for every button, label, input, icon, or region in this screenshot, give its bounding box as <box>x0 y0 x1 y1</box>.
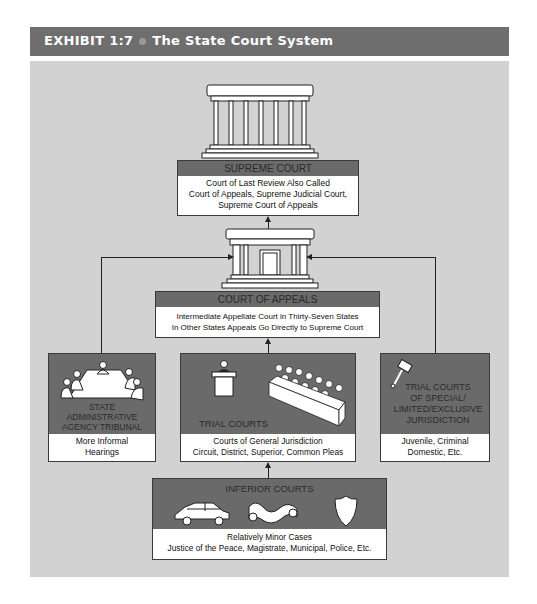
jury-box-icon <box>265 360 351 428</box>
arrow-up-icon <box>265 216 271 222</box>
special-trial-courts-box: TRIAL COURTS OF SPECIAL/ LIMITED/EXCLUSI… <box>380 353 490 462</box>
state-admin-tribunal-box: STATE ADMINISTRATIVE AGENCY TRIBUNAL Mor… <box>48 353 156 462</box>
state-admin-title-line: ADMINISTRATIVE <box>49 412 155 422</box>
court-of-appeals-line: Intermediate Appellate Court in Thirty-S… <box>156 311 379 322</box>
special-trial-title-line: TRIAL COURTS <box>387 382 489 393</box>
exhibit-title: EXHIBIT 1:7The State Court System <box>44 33 333 48</box>
special-trial-title-line: OF SPECIAL/ <box>387 393 489 404</box>
supreme-court-line: Court of Last Review Also Called <box>178 178 358 189</box>
courthouse-door-icon <box>220 228 320 290</box>
arrow-left-icon <box>306 254 312 260</box>
special-trial-line: Juvenile, Criminal <box>381 436 489 447</box>
connector-special-to-appeals <box>435 257 436 353</box>
supreme-court-line: Court of Appeals, Supreme Judicial Court… <box>178 189 358 200</box>
court-of-appeals-line: In Other States Appeals Go Directly to S… <box>156 322 379 333</box>
exhibit-caption: The State Court System <box>152 33 333 48</box>
special-trial-line: Domestic, Etc. <box>381 447 489 458</box>
state-admin-line: More Informal <box>49 436 155 447</box>
trial-courts-box: TRIAL COURTS Courts of General Jurisdict… <box>180 353 356 462</box>
arrow-right-icon <box>228 254 234 260</box>
trial-courts-line: Courts of General Jurisdiction <box>181 436 355 447</box>
inferior-courts-line: Relatively Minor Cases <box>153 532 386 543</box>
inferior-courts-box: INFERIOR COURTS Relatively Minor Cases J… <box>152 478 387 560</box>
special-trial-title-line: LIMITED/EXCLUSIVE <box>387 404 489 415</box>
trial-courts-line: Circuit, District, Superior, Common Plea… <box>181 447 355 458</box>
state-admin-title-line: STATE <box>49 402 155 412</box>
exhibit-number: EXHIBIT 1:7 <box>44 33 133 48</box>
connector-admin-to-appeals <box>101 257 102 353</box>
connector-admin-to-appeals <box>101 257 232 258</box>
bullet-icon <box>139 38 146 45</box>
car-icon <box>173 499 231 527</box>
supreme-court-title: SUPREME COURT <box>178 161 358 176</box>
state-admin-line: Hearings <box>49 447 155 458</box>
courthouse-columns-icon <box>205 83 335 161</box>
connector-special-to-appeals <box>308 257 436 258</box>
court-of-appeals-box: COURT OF APPEALS Intermediate Appellate … <box>155 291 380 338</box>
court-of-appeals-title: COURT OF APPEALS <box>156 292 379 307</box>
special-trial-title-line: JURISDICTION <box>387 415 489 426</box>
supreme-court-line: Supreme Court of Appeals <box>178 200 358 211</box>
supreme-court-box: SUPREME COURT Court of Last Review Also … <box>177 160 359 216</box>
state-admin-title-line: AGENCY TRIBUNAL <box>49 422 155 432</box>
podium-icon <box>209 360 239 400</box>
exhibit-header: EXHIBIT 1:7The State Court System <box>30 27 509 56</box>
scroll-icon <box>245 497 301 529</box>
state-admin-title: STATE ADMINISTRATIVE AGENCY TRIBUNAL <box>49 402 155 432</box>
special-trial-title: TRIAL COURTS OF SPECIAL/ LIMITED/EXCLUSI… <box>381 382 489 426</box>
badge-shield-icon <box>333 494 359 528</box>
conference-table-icon <box>59 360 147 402</box>
trial-courts-title: TRIAL COURTS <box>199 418 268 429</box>
arrow-up-icon <box>265 462 271 468</box>
inferior-courts-line: Justice of the Peace, Magistrate, Munici… <box>153 543 386 554</box>
inferior-courts-title: INFERIOR COURTS <box>153 483 386 494</box>
arrow-up-icon <box>265 338 271 344</box>
